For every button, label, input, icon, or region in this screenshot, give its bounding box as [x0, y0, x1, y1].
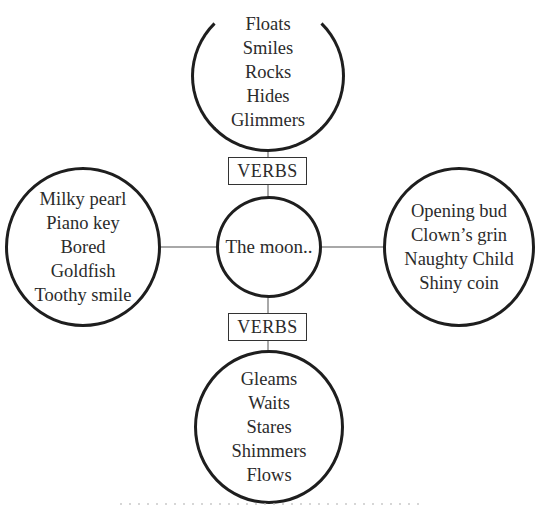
- bottom-verbs-label: VERBS: [228, 313, 307, 341]
- top-word: Smiles: [243, 36, 293, 60]
- center-topic-label: The moon..: [225, 236, 312, 258]
- left-word: Piano key: [46, 211, 119, 235]
- top-verbs-circle: Floats Smiles Rocks Hides Glimmers: [191, 0, 345, 152]
- connector-right: [316, 246, 386, 248]
- bottom-word: Stares: [246, 415, 291, 439]
- left-word: Toothy smile: [35, 283, 132, 307]
- top-verbs-label: VERBS: [228, 157, 307, 185]
- right-word: Clown’s grin: [411, 223, 507, 247]
- connector-left: [160, 246, 220, 248]
- right-word: Naughty Child: [404, 247, 513, 271]
- top-verbs-text: VERBS: [237, 161, 298, 182]
- bottom-word: Flows: [246, 463, 291, 487]
- left-word: Goldfish: [51, 259, 116, 283]
- center-topic-circle: The moon..: [216, 196, 322, 298]
- left-word: Milky pearl: [40, 187, 127, 211]
- right-word: Opening bud: [411, 199, 507, 223]
- bottom-word: Waits: [248, 391, 290, 415]
- bottom-verbs-text: VERBS: [237, 317, 298, 338]
- left-word: Bored: [60, 235, 105, 259]
- right-nouns-circle: Opening bud Clown’s grin Naughty Child S…: [383, 167, 535, 327]
- bottom-word: Gleams: [241, 367, 298, 391]
- left-nouns-circle: Milky pearl Piano key Bored Goldfish Too…: [5, 167, 161, 327]
- caption-remnant: [120, 503, 420, 505]
- bottom-word: Shimmers: [231, 439, 306, 463]
- top-word: Glimmers: [231, 108, 305, 132]
- cropped-caption: [0, 503, 537, 510]
- top-word: Rocks: [245, 60, 291, 84]
- bottom-verbs-circle: Gleams Waits Stares Shimmers Flows: [194, 350, 344, 504]
- right-word: Shiny coin: [419, 271, 499, 295]
- top-word: Floats: [245, 12, 290, 36]
- top-word: Hides: [246, 84, 289, 108]
